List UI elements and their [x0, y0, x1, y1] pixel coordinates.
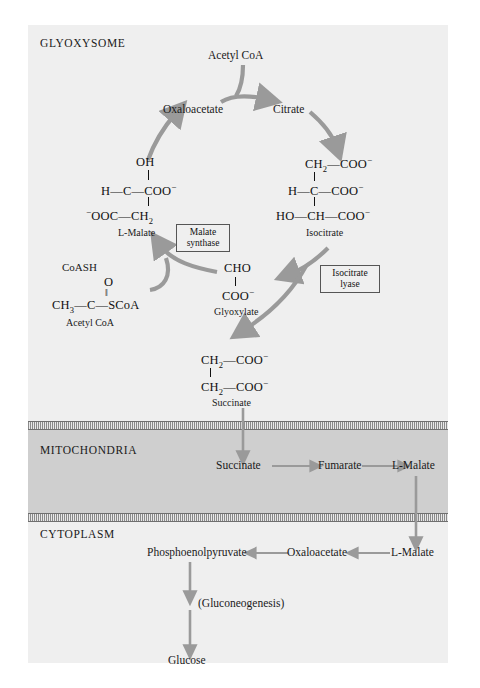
isocitrate-coo-1: COO	[340, 157, 367, 171]
metabolite-citrate: Citrate	[273, 104, 304, 116]
cyto-metabolite-l-malate: L-Malate	[391, 547, 434, 559]
glyoxylate-charge: −	[249, 287, 254, 297]
succinate-row2: CH2—COO−	[201, 379, 268, 396]
malate-row2: H—C—COO−	[101, 183, 176, 198]
mito-metabolite-l-malate: L-Malate	[392, 460, 435, 472]
succinate-charge-2: −	[263, 378, 268, 388]
metabolite-label-l-malate: L-Malate	[118, 228, 155, 238]
malate-row3: −OOC—CH2	[86, 208, 153, 225]
arrow-oxaloacetate-to-citrate	[221, 96, 266, 102]
metabolite-label-isocitrate: Isocitrate	[306, 228, 343, 238]
glyoxylate-coo: COO	[222, 289, 249, 303]
glyoxylate-row1-cho: CHO	[224, 262, 251, 275]
enzyme-box-malate-synthase[interactable]: Malate synthase	[176, 224, 230, 252]
succinate-coo-1: COO	[236, 353, 263, 367]
arrow-malate-to-oxaloacetate	[148, 113, 176, 160]
succinate-bond-2: —	[223, 380, 236, 394]
malate-bond-vertical-top	[148, 170, 149, 180]
succinate-row1: CH2—COO−	[201, 352, 268, 369]
acetylcoa-double-bond: ‖	[105, 288, 108, 298]
isocitrate-charge-2: −	[358, 182, 363, 192]
succinate-coo-2: COO	[236, 380, 263, 394]
malate-sub-2: 2	[149, 216, 153, 226]
cyto-metabolite-pep: Phosphoenolpyruvate	[147, 547, 247, 559]
compartment-label-mitochondria: MITOCHONDRIA	[40, 445, 137, 457]
isocitrate-row1: CH2—COO−	[305, 156, 372, 173]
isocitrate-row2: H—C—COO−	[288, 183, 363, 198]
succinate-ch-1: CH	[201, 353, 219, 367]
isocitrate-charge-1: −	[367, 155, 372, 165]
isocitrate-bond-4: —	[294, 209, 307, 223]
isocitrate-row3: HO—CH—COO−	[276, 208, 370, 223]
glyoxylate-row2: COO−	[222, 288, 254, 303]
isocitrate-bond-3: —	[318, 184, 331, 198]
acetylcoa-chain: CH3—C—SCoA	[52, 299, 140, 314]
metabolite-oxaloacetate: Oxaloacetate	[163, 104, 223, 116]
malate-row1-oh: OH	[136, 156, 154, 169]
malate-ch: CH	[131, 209, 149, 223]
acetylcoa-bond-1: —	[74, 298, 87, 312]
arrow-acetylcoa-to-junction	[236, 65, 243, 96]
isocitrate-bond-vertical-bottom	[314, 197, 315, 206]
malate-bond-3: —	[118, 209, 131, 223]
isocitrate-ho: HO	[276, 209, 294, 223]
arrow-acetylcoa-into-malate-synthase	[150, 258, 168, 290]
isocitrate-bond-vertical-top	[314, 172, 315, 181]
arrow-layer	[0, 0, 480, 688]
metabolite-label-succinate: Succinate	[212, 398, 251, 408]
succinate-charge-1: −	[263, 351, 268, 361]
mito-metabolite-succinate: Succinate	[216, 460, 261, 472]
mito-metabolite-fumarate: Fumarate	[318, 460, 361, 472]
cyto-metabolite-oxaloacetate: Oxaloacetate	[287, 547, 347, 559]
isocitrate-h: H	[288, 184, 297, 198]
metabolite-acetyl-coa-top: Acetyl CoA	[208, 50, 263, 62]
acetylcoa-scoa: SCoA	[108, 298, 139, 312]
succinate-bond-vertical	[210, 368, 211, 377]
malate-bond-vertical-bottom	[148, 197, 149, 206]
metabolite-label-glyoxylate: Glyoxylate	[214, 307, 258, 317]
malate-ooc: OOC	[91, 209, 118, 223]
arrow-citrate-to-isocitrate	[310, 112, 336, 146]
succinate-ch-2: CH	[201, 380, 219, 394]
malate-bond-1: —	[110, 184, 123, 198]
malate-h: H	[101, 184, 110, 198]
isocitrate-charge-3: −	[365, 207, 370, 217]
enzyme-isocitrate-lyase-line1: Isocitrate	[325, 268, 375, 279]
isocitrate-bond-1: —	[327, 157, 340, 171]
isocitrate-coo-2: COO	[331, 184, 358, 198]
isocitrate-coo-3: COO	[338, 209, 365, 223]
pathway-label-gluconeogenesis: (Gluconeogenesis)	[198, 598, 284, 610]
enzyme-box-isocitrate-lyase[interactable]: Isocitrate lyase	[320, 265, 380, 293]
acetylcoa-bond-2: —	[95, 298, 108, 312]
metabolite-label-acetyl-coa: Acetyl CoA	[66, 318, 114, 328]
acetylcoa-ch3: CH	[52, 298, 70, 312]
enzyme-isocitrate-lyase-line2: lyase	[325, 279, 375, 290]
metabolite-coash: CoASH	[62, 262, 97, 273]
isocitrate-bond-2: —	[297, 184, 310, 198]
glyoxylate-bond-vertical	[235, 277, 236, 286]
figure-canvas: GLYOXYSOME Acetyl CoA Oxaloacetate Citra…	[0, 0, 480, 688]
malate-charge-1: −	[171, 182, 176, 192]
isocitrate-bond-5: —	[325, 209, 338, 223]
malate-bond-2: —	[131, 184, 144, 198]
cyto-metabolite-glucose: Glucose	[168, 655, 206, 667]
enzyme-malate-synthase-line1: Malate	[181, 227, 225, 238]
succinate-bond-1: —	[223, 353, 236, 367]
compartment-label-cytoplasm: CYTOPLASM	[40, 529, 115, 541]
isocitrate-ch: CH	[305, 157, 323, 171]
isocitrate-ch-2: CH	[307, 209, 325, 223]
compartment-label-glyoxysome: GLYOXYSOME	[40, 38, 125, 50]
enzyme-malate-synthase-line2: synthase	[181, 238, 225, 249]
